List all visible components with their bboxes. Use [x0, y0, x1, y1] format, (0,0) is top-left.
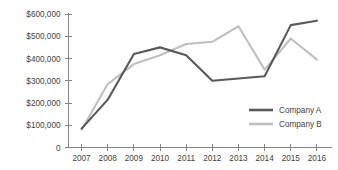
- x-axis-ticks: 2007200820092010201120122013201420152016: [72, 144, 326, 163]
- y-tick-label: $200,000: [26, 99, 61, 108]
- x-tick-label: 2016: [308, 154, 327, 163]
- y-tick-label: $500,000: [26, 32, 61, 41]
- x-axis-group: 2007200820092010201120122013201420152016: [69, 144, 333, 163]
- y-tick-label: $300,000: [26, 77, 61, 86]
- line-chart-container: 0$100,000$200,000$300,000$400,000$500,00…: [0, 0, 338, 170]
- x-tick-label: 2015: [282, 154, 301, 163]
- x-tick-label: 2008: [99, 154, 118, 163]
- y-tick-label: 0: [56, 144, 61, 153]
- legend-label-company-b: Company B: [279, 120, 322, 129]
- y-axis-group: 0$100,000$200,000$300,000$400,000$500,00…: [26, 10, 72, 153]
- y-tick-label: $100,000: [26, 121, 61, 130]
- x-tick-label: 2013: [229, 154, 248, 163]
- y-axis-ticks: 0$100,000$200,000$300,000$400,000$500,00…: [26, 10, 72, 153]
- chart-canvas: 0$100,000$200,000$300,000$400,000$500,00…: [0, 0, 338, 170]
- y-tick-label: $400,000: [26, 55, 61, 64]
- x-tick-label: 2014: [256, 154, 275, 163]
- x-tick-label: 2010: [151, 154, 170, 163]
- x-tick-label: 2009: [125, 154, 144, 163]
- y-tick-label: $600,000: [26, 10, 61, 19]
- x-tick-label: 2011: [177, 154, 195, 163]
- x-tick-label: 2007: [72, 154, 91, 163]
- x-tick-label: 2012: [203, 154, 222, 163]
- chart-legend: Company ACompany B: [249, 106, 322, 129]
- legend-label-company-a: Company A: [279, 106, 322, 115]
